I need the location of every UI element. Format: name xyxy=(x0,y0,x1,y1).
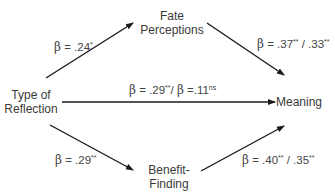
coef-reflection-to-benefit: β = .29** xyxy=(55,154,96,167)
node-meaning: Meaning xyxy=(276,95,322,109)
coef-value-1: = .40 xyxy=(249,154,278,166)
coef-fate-to-meaning: β = .37** / .33** xyxy=(257,38,330,51)
sig-marker-2: ** xyxy=(324,38,329,45)
beta-symbol: β xyxy=(257,37,264,51)
beta-symbol: β xyxy=(129,83,136,97)
beta-symbol: β xyxy=(54,40,61,54)
beta-symbol: β xyxy=(55,153,62,167)
sig-marker: * xyxy=(90,41,93,48)
coef-reflection-to-meaning: β = .29**/ β =.11ns xyxy=(129,84,216,97)
node-label-line2: Perceptions xyxy=(138,23,206,37)
node-type-of-reflection: Type of Reflection xyxy=(2,88,60,116)
mediation-diagram: Type of Reflection Fate Perceptions Bene… xyxy=(0,0,335,195)
node-label-line2: Reflection xyxy=(2,102,60,116)
coef-value-2: / .35 xyxy=(283,154,309,166)
beta-symbol: β xyxy=(242,153,249,167)
node-label-line1: Fate xyxy=(138,9,206,23)
coef-reflection-to-fate: β = .24* xyxy=(54,41,93,54)
node-fate-perceptions: Fate Perceptions xyxy=(138,9,206,37)
node-benefit-finding: Benefit- Finding xyxy=(138,163,200,191)
node-label-line1: Benefit- xyxy=(138,163,200,177)
node-label: Meaning xyxy=(276,95,322,109)
coef-value-1: = .37 xyxy=(264,38,293,50)
coef-value: = .29 xyxy=(62,154,91,166)
node-label-line1: Type of xyxy=(2,88,60,102)
sig-marker: ** xyxy=(91,154,96,161)
coef-value-2: / .33 xyxy=(298,38,324,50)
sig-marker-2: ns xyxy=(209,84,216,91)
coef-benefit-to-meaning: β = .40** / .35** xyxy=(242,154,315,167)
coef-value: = .24 xyxy=(61,41,90,53)
sig-marker-2: ** xyxy=(309,154,314,161)
beta-symbol-2: β xyxy=(177,83,184,97)
coef-value-1: = .29 xyxy=(136,84,165,96)
coef-value-2: =.11 xyxy=(184,84,209,96)
node-label-line2: Finding xyxy=(138,177,200,191)
